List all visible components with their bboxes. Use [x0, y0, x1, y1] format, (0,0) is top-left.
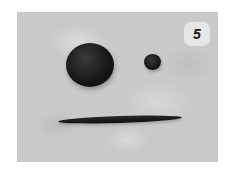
clay-snake — [58, 114, 182, 125]
photo: 5 — [17, 12, 218, 162]
step-number: 5 — [193, 26, 201, 42]
large-clay-ball — [66, 43, 114, 87]
small-clay-ball — [144, 54, 161, 70]
step-number-badge: 5 — [184, 22, 210, 46]
